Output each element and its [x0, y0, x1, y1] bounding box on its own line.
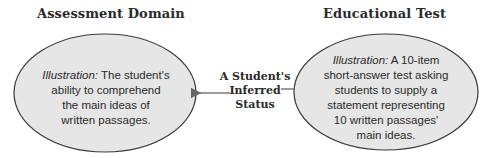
text-line: ability to comprehend: [28, 83, 184, 98]
text-line: main ideas.: [308, 128, 464, 143]
text-line: the main ideas of: [28, 98, 184, 113]
text-line: Illustration: A 10-item: [308, 53, 464, 68]
educational-test-text: Illustration: A 10-item short-answer tes…: [308, 53, 464, 143]
assessment-domain-heading: Assessment Domain: [37, 6, 185, 21]
educational-test-heading: Educational Test: [323, 6, 446, 21]
text-line: Illustration: The student's: [28, 68, 184, 83]
text-line: short-answer test asking: [308, 68, 464, 83]
assessment-domain-text: Illustration: The student's ability to c…: [28, 68, 184, 128]
inference-diagram: Assessment Domain Educational Test Illus…: [0, 0, 487, 158]
text-line: written passages.: [28, 113, 184, 128]
illustration-label: Illustration:: [333, 54, 389, 66]
text-line: 10 written passages': [308, 113, 464, 128]
inferred-status-label: A Student's Inferred Status: [215, 70, 295, 112]
illustration-label: Illustration:: [42, 69, 98, 81]
text-line: statement representing: [308, 98, 464, 113]
text-line: students to supply a: [308, 83, 464, 98]
